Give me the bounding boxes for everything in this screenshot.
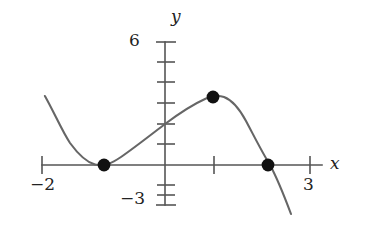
graph-figure: y x 6 −3 −2 3	[0, 0, 366, 240]
point-root	[262, 159, 275, 172]
x-axis-label: x	[330, 155, 340, 172]
point-local-minimum	[98, 159, 111, 172]
x-axis-tick-label-min: −2	[30, 176, 55, 193]
x-axis-tick-label-max: 3	[303, 176, 314, 193]
y-axis-label: y	[171, 8, 181, 25]
y-axis-tick-label-max: 6	[129, 32, 140, 49]
cubic-curve	[45, 96, 291, 214]
marked-points	[98, 91, 275, 172]
cubic-function-plot	[0, 0, 366, 240]
y-axis-tick-label-min: −3	[120, 190, 145, 207]
point-local-maximum	[207, 91, 220, 104]
